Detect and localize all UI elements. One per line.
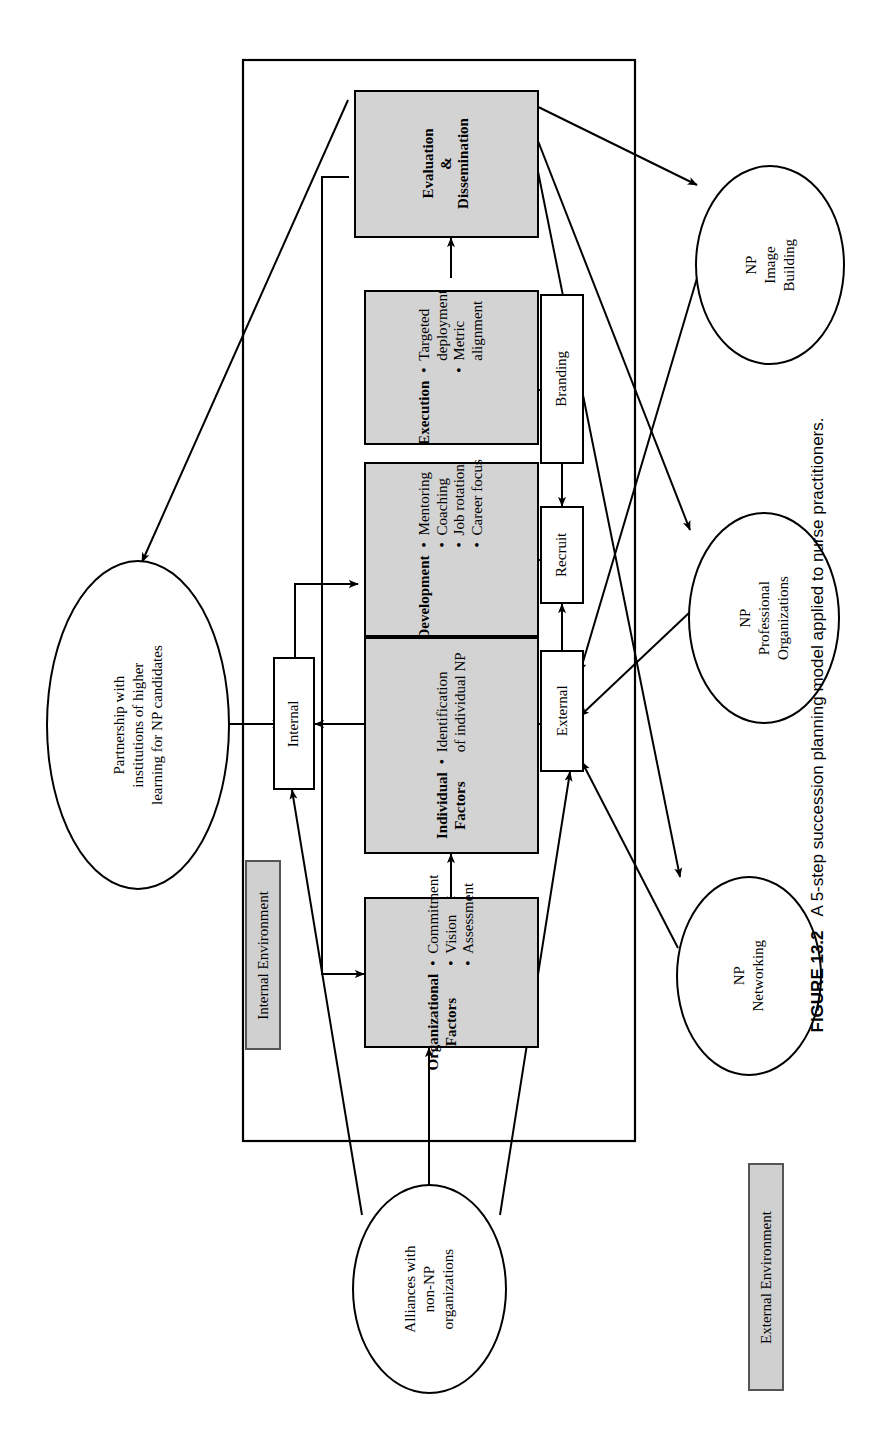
channel-box-external[interactable]: External [540, 650, 584, 772]
bullet-item: •Mentoring [416, 459, 434, 547]
channel-box-branding[interactable]: Branding [540, 294, 584, 464]
stage-box-individual-factors[interactable]: IndividualFactors •Identificationof indi… [364, 637, 539, 854]
ellipse-partnership-higher-learning[interactable]: Partnership withinstitutions of higherle… [46, 560, 230, 890]
ellipse-label-partnership-higher-learning: Partnership withinstitutions of higherle… [110, 645, 166, 805]
bullet-item: •Career focus [469, 459, 487, 547]
bullet-item: •Assessment [460, 875, 478, 966]
legend-internal-environment: Internal Environment [245, 860, 281, 1050]
channel-box-internal[interactable]: Internal [273, 657, 315, 790]
ellipse-alliances-non-np[interactable]: Alliances withnon-NPorganizations [352, 1184, 507, 1394]
bullet-item: •Vision [443, 875, 461, 966]
bullet-item: •Commitment [425, 875, 443, 966]
stage-title-execution: Execution [416, 381, 434, 445]
stage-box-execution[interactable]: Execution •Targeteddeployment •Metricali… [364, 290, 539, 445]
figure-number: FIGURE 13.2 [808, 930, 827, 1032]
stage-title-evaluation-dissemination: Evaluation&Dissemination [420, 119, 473, 210]
channel-label-external: External [553, 686, 571, 737]
bullet-item: •Coaching [434, 459, 452, 547]
bullet-item: •Metricalignment [452, 290, 487, 373]
channel-label-branding: Branding [553, 351, 571, 407]
figure-caption-text: A 5-step succession planning model appli… [808, 417, 827, 916]
bullet-item: •Job rotation [452, 459, 470, 547]
stage-box-evaluation-dissemination[interactable]: Evaluation&Dissemination [354, 90, 539, 238]
figure-caption: FIGURE 13.2A 5-step succession planning … [760, 0, 875, 1449]
stage-box-organizational-factors[interactable]: OrganizationalFactors •Commitment •Visio… [364, 897, 539, 1048]
bullet-item: •Identificationof individual NP [434, 652, 469, 764]
figure-page: OrganizationalFactors •Commitment •Visio… [0, 0, 875, 1449]
stage-box-development[interactable]: Development •Mentoring •Coaching •Job ro… [364, 462, 539, 637]
stage-title-development: Development [416, 556, 434, 640]
stage-bullets-organizational-factors: •Commitment •Vision •Assessment [425, 875, 478, 966]
stage-title-organizational-factors: OrganizationalFactors [425, 974, 460, 1071]
stage-bullets-individual-factors: •Identificationof individual NP [434, 652, 469, 764]
stage-bullets-development: •Mentoring •Coaching •Job rotation •Care… [416, 459, 487, 547]
channel-label-recruit: Recruit [553, 533, 571, 577]
channel-box-recruit[interactable]: Recruit [540, 506, 584, 604]
channel-label-internal: Internal [285, 700, 303, 747]
stage-title-individual-factors: IndividualFactors [434, 772, 469, 839]
legend-label-internal-environment: Internal Environment [255, 891, 272, 1020]
bullet-item: •Targeteddeployment [416, 290, 451, 373]
ellipse-label-alliances-non-np: Alliances withnon-NPorganizations [401, 1245, 457, 1332]
stage-bullets-execution: •Targeteddeployment •Metricalignment [416, 290, 487, 373]
